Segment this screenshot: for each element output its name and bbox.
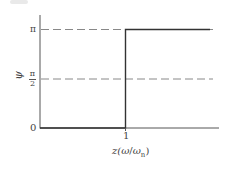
x-label-omega-n: ω — [133, 145, 141, 156]
half-pi-numerator: π — [30, 70, 35, 78]
x-label-prefix: z( — [112, 145, 121, 156]
half-pi-denominator: 2 — [30, 80, 35, 88]
y-axis-label: ψ — [12, 71, 25, 80]
y-tick-label-half-pi: π 2 — [29, 70, 36, 88]
x-label-suffix: ) — [145, 145, 149, 156]
y-tick-label-pi: π — [30, 24, 36, 34]
x-axis-label: z(ω/ωn) — [112, 145, 149, 159]
y-tick-label-zero: 0 — [30, 123, 36, 133]
x-tick-label-one: 1 — [123, 131, 129, 141]
